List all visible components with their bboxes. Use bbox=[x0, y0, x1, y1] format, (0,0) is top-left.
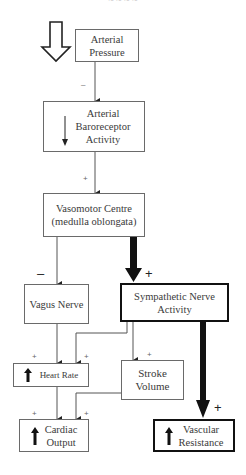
sign-plus: + bbox=[83, 174, 88, 183]
sign-plus: + bbox=[147, 350, 152, 359]
sign-plus: + bbox=[214, 400, 222, 415]
baroreceptor-node: ArterialBaroreceptorActivity bbox=[43, 101, 145, 152]
node-label: Vascular bbox=[179, 423, 224, 436]
vascular-resistance-node: VascularResistance bbox=[153, 419, 235, 452]
up-arrow-icon bbox=[31, 427, 39, 445]
node-label: Activity bbox=[76, 133, 131, 146]
node-label: Cardiac bbox=[45, 423, 78, 436]
node-label: Vagus Nerve bbox=[30, 298, 84, 311]
node-label: Stroke bbox=[135, 367, 169, 380]
sign-plus: + bbox=[84, 352, 89, 361]
node-label: Pressure bbox=[89, 46, 125, 59]
node-label: Baroreceptor bbox=[76, 120, 131, 133]
cardiac-output-node: CardiacOutput bbox=[19, 419, 89, 452]
vagus-nerve-node: Vagus Nerve bbox=[24, 284, 89, 324]
heart-rate-node: Heart Rate bbox=[13, 363, 89, 387]
node-label: Resistance bbox=[179, 436, 224, 449]
down-arrow-icon bbox=[62, 116, 68, 146]
node-label: Sympathetic Nerve bbox=[134, 290, 215, 303]
sign-plus: + bbox=[32, 352, 37, 361]
sign-plus: + bbox=[84, 409, 89, 418]
sympathetic-nerve-node: Sympathetic NerveActivity bbox=[120, 283, 229, 322]
hollow-down-arrow-icon bbox=[42, 22, 70, 61]
node-label: Heart Rate bbox=[40, 369, 79, 382]
node-label: Volume bbox=[135, 380, 169, 393]
node-label: Arterial bbox=[89, 33, 125, 46]
node-label: Vasomotor Centre bbox=[52, 202, 137, 215]
vasomotor-centre-node: Vasomotor Centre(medulla oblongata) bbox=[43, 193, 145, 237]
sign-plus: + bbox=[145, 266, 153, 281]
up-arrow-icon bbox=[24, 368, 32, 382]
sign-plus: + bbox=[32, 409, 37, 418]
arterial-pressure-node: ArterialPressure bbox=[75, 29, 139, 62]
sign-minus: – bbox=[81, 80, 85, 89]
node-label: (medulla oblongata) bbox=[52, 215, 137, 228]
node-label: Arterial bbox=[76, 107, 131, 120]
up-arrow-icon bbox=[165, 427, 173, 445]
node-label: Output bbox=[45, 436, 78, 449]
node-label: Activity bbox=[134, 303, 215, 316]
connector-lines bbox=[0, 0, 246, 475]
stroke-volume-node: StrokeVolume bbox=[121, 360, 184, 400]
sign-minus: – bbox=[37, 266, 44, 281]
